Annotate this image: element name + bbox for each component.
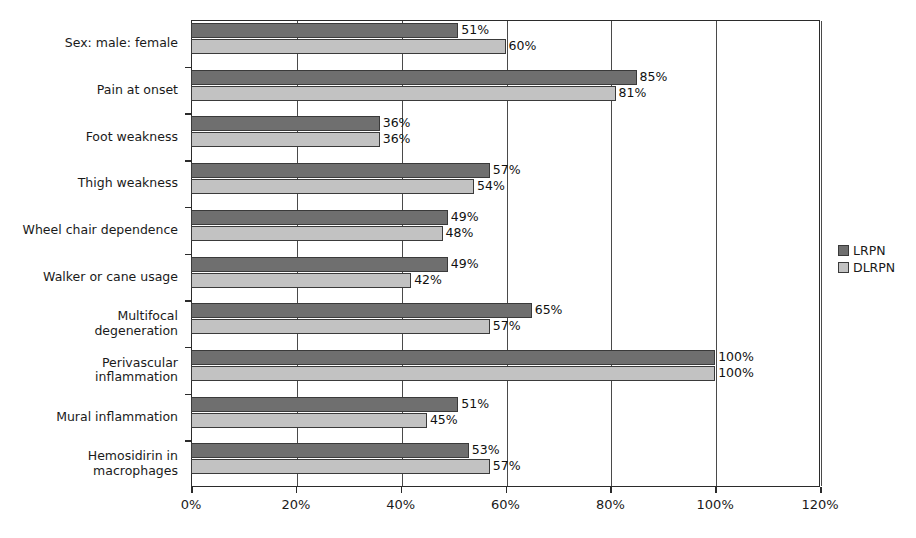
category-label: Hemosidirin in macrophages: [88, 449, 178, 478]
bar-lrpn: [191, 397, 458, 412]
legend-label: LRPN: [853, 243, 886, 258]
x-axis-tick-label: 120%: [801, 497, 838, 512]
category-label: Thigh weakness: [78, 176, 178, 191]
bar-value-label: 42%: [414, 273, 442, 286]
bar-value-label: 51%: [461, 397, 489, 410]
chart-legend: LRPNDLRPN: [838, 243, 895, 277]
bar-value-label: 49%: [451, 257, 479, 270]
category-label: Walker or cane usage: [43, 270, 178, 285]
bar-value-label: 60%: [509, 39, 537, 52]
x-axis-tick: [506, 487, 508, 493]
y-axis-tick: [185, 300, 191, 302]
bar-value-label: 100%: [718, 366, 754, 379]
bar-dlrpn: [191, 39, 506, 54]
bar-dlrpn: [191, 226, 443, 241]
bar-value-label: 36%: [383, 132, 411, 145]
y-axis-tick: [185, 207, 191, 209]
legend-label: DLRPN: [853, 260, 895, 275]
x-axis-tick-label: 40%: [386, 497, 415, 512]
bar-value-label: 57%: [493, 459, 521, 472]
bar-dlrpn: [191, 319, 490, 334]
x-axis-tick: [191, 487, 193, 493]
bar-value-label: 53%: [472, 443, 500, 456]
x-axis-tick-label: 100%: [697, 497, 734, 512]
category-axis-labels: Sex: male: femalePain at onsetFoot weakn…: [0, 20, 186, 487]
category-label: Mural inflammation: [56, 410, 178, 425]
bar-value-label: 51%: [461, 23, 489, 36]
bar-lrpn: [191, 163, 490, 178]
bar-row: 36%36%: [191, 113, 820, 160]
category-label: Pain at onset: [97, 83, 178, 98]
bar-value-label: 45%: [430, 413, 458, 426]
x-axis-tick: [820, 487, 822, 493]
x-axis-tick-label: 0%: [181, 497, 202, 512]
bar-value-label: 49%: [451, 210, 479, 223]
bar-row: 49%48%: [191, 207, 820, 254]
bar-dlrpn: [191, 132, 380, 147]
bar-lrpn: [191, 116, 380, 131]
bar-row: 49%42%: [191, 254, 820, 301]
gridline: [821, 21, 822, 486]
x-axis-tick-label: 60%: [491, 497, 520, 512]
bar-row: 57%54%: [191, 160, 820, 207]
bar-row: 53%57%: [191, 440, 820, 487]
x-axis: 0%20%40%60%80%100%120%: [191, 487, 820, 527]
bar-row: 100%100%: [191, 347, 820, 394]
bar-value-label: 85%: [640, 70, 668, 83]
legend-item[interactable]: LRPN: [838, 243, 895, 258]
x-axis-tick-label: 80%: [596, 497, 625, 512]
bar-value-label: 48%: [446, 226, 474, 239]
x-axis-tick: [610, 487, 612, 493]
legend-swatch-icon: [838, 262, 849, 273]
bar-lrpn: [191, 257, 448, 272]
x-axis-tick: [401, 487, 403, 493]
bar-lrpn: [191, 70, 637, 85]
bar-value-label: 65%: [535, 303, 563, 316]
bar-lrpn: [191, 443, 469, 458]
legend-item[interactable]: DLRPN: [838, 260, 895, 275]
y-axis-tick: [185, 347, 191, 349]
x-axis-tick: [715, 487, 717, 493]
bar-value-label: 36%: [383, 116, 411, 129]
bar-value-label: 57%: [493, 319, 521, 332]
bar-row: 85%81%: [191, 67, 820, 114]
x-axis-tick: [296, 487, 298, 493]
chart-title: [330, 0, 590, 6]
y-axis-tick: [185, 67, 191, 69]
bar-lrpn: [191, 210, 448, 225]
bar-dlrpn: [191, 179, 474, 194]
category-label: Multifocal degeneration: [94, 309, 178, 338]
bar-dlrpn: [191, 413, 427, 428]
bar-value-label: 54%: [477, 179, 505, 192]
bar-row: 51%45%: [191, 394, 820, 441]
bar-lrpn: [191, 23, 458, 38]
bar-dlrpn: [191, 366, 715, 381]
y-axis-tick: [185, 160, 191, 162]
bar-dlrpn: [191, 273, 411, 288]
bar-value-label: 100%: [718, 350, 754, 363]
category-label: Perivascular inflammation: [95, 356, 178, 385]
bar-lrpn: [191, 350, 715, 365]
bar-row: 65%57%: [191, 300, 820, 347]
category-label: Sex: male: female: [65, 36, 178, 51]
bar-dlrpn: [191, 459, 490, 474]
bar-row: 51%60%: [191, 20, 820, 67]
bar-lrpn: [191, 303, 532, 318]
bar-chart: Sex: male: femalePain at onsetFoot weakn…: [0, 0, 916, 538]
bar-value-label: 57%: [493, 163, 521, 176]
category-label: Wheel chair dependence: [23, 223, 178, 238]
legend-swatch-icon: [838, 245, 849, 256]
x-axis-tick-label: 20%: [281, 497, 310, 512]
bar-dlrpn: [191, 86, 616, 101]
bar-value-label: 81%: [619, 86, 647, 99]
y-axis-tick: [185, 394, 191, 396]
y-axis-tick: [185, 440, 191, 442]
y-axis-tick: [185, 254, 191, 256]
category-label: Foot weakness: [86, 130, 178, 145]
y-axis-tick: [185, 113, 191, 115]
bar-rows: 51%60%85%81%36%36%57%54%49%48%49%42%65%5…: [191, 20, 820, 487]
